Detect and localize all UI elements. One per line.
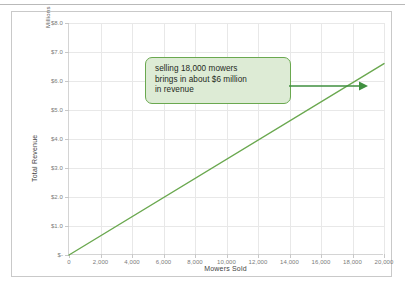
x-tick-label: 0 bbox=[67, 259, 70, 265]
callout-line-2: brings in about $6 million bbox=[155, 75, 282, 86]
annotation-callout: selling 18,000 mowers brings in about $6… bbox=[145, 57, 291, 104]
x-tick-label: 10,000 bbox=[217, 259, 236, 265]
y-tick-label: $8.0 bbox=[51, 20, 63, 26]
x-tick-label: 6,000 bbox=[156, 259, 172, 265]
x-tick-label: 12,000 bbox=[249, 259, 268, 265]
x-tick-label: 18,000 bbox=[343, 259, 362, 265]
y-tick-label: $3.0 bbox=[51, 165, 63, 171]
annotation-arrow-icon bbox=[289, 78, 371, 94]
callout-line-3: in revenue bbox=[155, 85, 282, 96]
x-axis-title: Mowers Sold bbox=[68, 265, 383, 272]
x-tick-label: 4,000 bbox=[124, 259, 140, 265]
gridline-vertical bbox=[384, 23, 385, 255]
chart-card: Millions Total Revenue Mowers Sold $-$1.… bbox=[11, 11, 392, 277]
revenue-line-chart: Millions Total Revenue Mowers Sold $-$1.… bbox=[12, 12, 391, 276]
y-tick-label: $5.0 bbox=[51, 107, 63, 113]
y-tick-label: $1.0 bbox=[51, 223, 63, 229]
top-divider bbox=[0, 4, 405, 5]
callout-line-1: selling 18,000 mowers bbox=[155, 64, 282, 75]
y-tick-label: $4.0 bbox=[51, 136, 63, 142]
y-tick-label: $- bbox=[57, 252, 63, 258]
y-tick-label: $6.0 bbox=[51, 78, 63, 84]
x-tick-label: 8,000 bbox=[187, 259, 203, 265]
y-tick-label: $2.0 bbox=[51, 194, 63, 200]
y-tick-label: $7.0 bbox=[51, 49, 63, 55]
y-axis-title: Total Revenue bbox=[31, 135, 38, 182]
x-tick-label: 2,000 bbox=[93, 259, 109, 265]
x-tick-label: 16,000 bbox=[312, 259, 331, 265]
x-tick-label: 14,000 bbox=[280, 259, 299, 265]
x-tick-label: 20,000 bbox=[375, 259, 394, 265]
x-tick-mark bbox=[384, 254, 385, 258]
